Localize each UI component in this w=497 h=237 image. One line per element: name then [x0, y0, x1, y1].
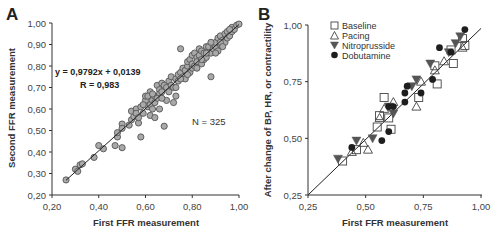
- panel-a-n-count: N = 325: [192, 116, 226, 127]
- dobutamine-point: [390, 103, 397, 110]
- data-point: [194, 65, 200, 71]
- legend-pacing-triangle-icon: [331, 32, 339, 40]
- dobutamine-point: [429, 76, 436, 83]
- y-tick-label: 0,70: [28, 82, 47, 93]
- y-tick-label: 0,50: [284, 133, 303, 144]
- y-tick-label: 0,30: [28, 168, 47, 179]
- nitroprusside-point: [352, 137, 361, 145]
- panel-a: A 0,200,400,600,801,000,200,300,400,500,…: [6, 5, 248, 228]
- y-tick-label: 1,00: [284, 20, 303, 31]
- data-point: [208, 39, 214, 45]
- data-point: [173, 93, 179, 99]
- y-tick-label: 0,40: [28, 147, 47, 158]
- y-tick-label: 0,25: [284, 190, 303, 201]
- data-point: [220, 44, 226, 50]
- pacing-point: [375, 113, 384, 121]
- x-tick-label: 0,50: [356, 201, 375, 212]
- nitroprusside-point: [426, 60, 435, 68]
- data-point: [156, 106, 162, 112]
- x-tick-label: 0,25: [299, 201, 318, 212]
- panel-b-legend: Baseline Pacing Nitroprusside Dobutamine: [331, 21, 396, 61]
- dobutamine-point: [378, 137, 385, 144]
- y-tick-label: 0,80: [28, 61, 47, 72]
- dobutamine-point: [348, 144, 355, 151]
- dobutamine-point: [448, 49, 455, 56]
- data-point: [152, 115, 158, 121]
- legend-dobutamine-circle-icon: [331, 52, 338, 59]
- panel-b-x-label: First FFR measurement: [342, 217, 449, 228]
- data-point: [149, 106, 155, 112]
- y-tick-label: 0,50: [28, 125, 47, 136]
- panel-a-letter: A: [6, 5, 18, 24]
- pacing-point: [412, 102, 421, 110]
- x-tick-label: 0,40: [90, 201, 109, 212]
- data-point: [119, 145, 125, 151]
- dobutamine-point: [404, 83, 411, 90]
- legend-dobutamine-label: Dobutamine: [342, 51, 391, 61]
- baseline-point: [380, 94, 388, 102]
- y-tick-label: 0,20: [28, 190, 47, 201]
- dobutamine-point: [401, 90, 408, 97]
- nitroprusside-point: [451, 40, 460, 48]
- panel-a-y-label: Second FFR measurement: [6, 47, 17, 168]
- y-tick-label: 0,90: [28, 39, 47, 50]
- baseline-point: [373, 123, 381, 131]
- data-point: [138, 134, 144, 140]
- data-point: [112, 142, 118, 148]
- dobutamine-point: [401, 99, 408, 106]
- legend-pacing-label: Pacing: [342, 31, 370, 41]
- data-point: [170, 99, 176, 105]
- baseline-point: [449, 60, 457, 68]
- panel-a-x-label: First FFR measurement: [93, 217, 200, 228]
- panel-a-equation: y = 0,9792x + 0,0139: [55, 67, 141, 77]
- dobutamine-point: [436, 44, 443, 51]
- x-tick-label: 1,00: [472, 201, 491, 212]
- figure-canvas: A 0,200,400,600,801,000,200,300,400,500,…: [0, 0, 497, 237]
- data-point: [161, 123, 167, 129]
- legend-baseline-square-icon: [331, 22, 338, 29]
- panel-a-r-value: R = 0,983: [80, 80, 119, 90]
- pacing-point: [458, 43, 467, 51]
- figure: A 0,200,400,600,801,000,200,300,400,500,…: [0, 0, 497, 237]
- x-tick-label: 0,80: [183, 201, 202, 212]
- data-point: [173, 84, 179, 90]
- panel-a-regression-line: [66, 24, 239, 180]
- y-tick-label: 1,00: [28, 18, 47, 29]
- data-point: [208, 74, 214, 80]
- x-tick-label: 0,60: [136, 201, 155, 212]
- dobutamine-point: [385, 128, 392, 135]
- nitroprusside-point: [333, 155, 342, 163]
- nitroprusside-point: [368, 135, 377, 143]
- dobutamine-point: [461, 26, 468, 33]
- panel-b-y-label: After change of BP, HR, or contractility: [262, 22, 273, 197]
- data-point: [213, 50, 219, 56]
- x-tick-label: 0,75: [414, 201, 433, 212]
- legend-nitroprusside-label: Nitroprusside: [342, 41, 395, 51]
- x-tick-label: 0,20: [43, 201, 62, 212]
- data-point: [140, 102, 146, 108]
- y-tick-label: 0,75: [284, 76, 303, 87]
- panel-b: B 0,250,500,751,000,250,500,751,00 Basel…: [258, 5, 490, 228]
- data-point: [177, 46, 183, 52]
- y-tick-label: 0,60: [28, 104, 47, 115]
- legend-nitroprusside-triangle-icon: [331, 42, 339, 49]
- panel-b-letter: B: [258, 5, 270, 24]
- x-tick-label: 1,00: [230, 201, 249, 212]
- dobutamine-point: [418, 90, 425, 97]
- legend-baseline-label: Baseline: [342, 21, 377, 31]
